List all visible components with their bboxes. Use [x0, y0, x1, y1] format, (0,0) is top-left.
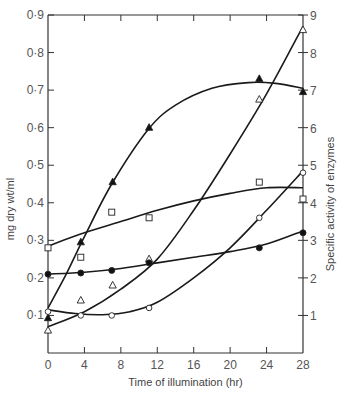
- y-tick-label: 0·6: [27, 121, 45, 135]
- filled-triangle-marker: [256, 75, 263, 82]
- y2-tick-label: 8: [310, 47, 317, 61]
- y-tick-label: 0·7: [27, 83, 45, 97]
- labels: 04812162024280·10·20·30·40·50·60·70·80·9…: [4, 8, 336, 388]
- filled-triangle-marker: [299, 88, 306, 95]
- axes: [48, 15, 308, 353]
- y2-tick-label: 3: [310, 234, 317, 248]
- open-circle-marker: [300, 170, 306, 176]
- x-tick-label: 28: [296, 358, 310, 372]
- open-triangle-marker: [44, 326, 51, 333]
- open-square-marker: [78, 254, 84, 260]
- open-circle-curve: [48, 171, 303, 315]
- y2-tick-label: 1: [310, 309, 317, 323]
- open-triangle-marker: [109, 281, 116, 288]
- x-tick-label: 24: [260, 358, 274, 372]
- y2-tick-label: 5: [310, 159, 317, 173]
- y-tick-label: 0·3: [27, 233, 45, 247]
- y2-tick-label: 2: [310, 272, 317, 286]
- open-triangle-curve: [48, 26, 303, 326]
- open-triangle-marker: [256, 96, 263, 103]
- x-tick-label: 0: [45, 358, 52, 372]
- open-triangle-marker: [77, 296, 84, 303]
- y-axis-title-text: mg dry wt/ml: [4, 178, 16, 240]
- x-tick-label: 4: [81, 358, 88, 372]
- x-tick-label: 20: [223, 358, 237, 372]
- filled-circle-marker: [256, 245, 262, 251]
- y2-tick-label: 7: [310, 84, 317, 98]
- filled-circle-marker: [109, 267, 115, 273]
- curves: [48, 26, 303, 326]
- y-tick-label: 0·9: [27, 8, 45, 22]
- open-square-marker: [109, 209, 115, 215]
- markers: [44, 26, 306, 333]
- x-tick-label: 8: [118, 358, 125, 372]
- y-tick-label: 0·1: [27, 308, 45, 322]
- open-circle-marker: [256, 215, 262, 221]
- y2-tick-label: 6: [310, 122, 317, 136]
- y-tick-label: 0·2: [27, 271, 45, 285]
- filled-circle-marker: [300, 230, 306, 236]
- open-square-marker: [256, 179, 262, 185]
- open-square-marker: [300, 196, 306, 202]
- open-circle-marker: [45, 309, 51, 315]
- y-tick-label: 0·8: [27, 46, 45, 60]
- x-axis-title-text: Time of illumination (hr): [128, 376, 243, 388]
- y-tick-label: 0·4: [27, 196, 45, 210]
- open-circle-marker: [78, 313, 84, 319]
- chart-figure: 04812162024280·10·20·30·40·50·60·70·80·9…: [0, 0, 342, 393]
- open-square-marker: [146, 215, 152, 221]
- filled-circle-marker: [78, 270, 84, 276]
- y2-axis-title-text: Specific activity of enzymes: [324, 136, 336, 271]
- open-circle-marker: [109, 313, 115, 319]
- filled-triangle-curve: [48, 82, 303, 308]
- x-tick-label: 12: [151, 358, 165, 372]
- x-tick-label: 16: [187, 358, 201, 372]
- y-tick-label: 0·5: [27, 158, 45, 172]
- filled-circle-marker: [146, 260, 152, 266]
- open-square-marker: [45, 245, 51, 251]
- filled-circle-marker: [45, 271, 51, 277]
- y2-tick-label: 4: [310, 197, 317, 211]
- y2-tick-label: 9: [310, 9, 317, 23]
- open-circle-marker: [146, 305, 152, 311]
